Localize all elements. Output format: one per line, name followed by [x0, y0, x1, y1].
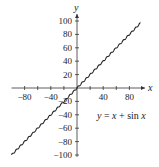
y-tick-label: 20: [63, 70, 73, 80]
equation-label: y = x + sin x: [96, 110, 146, 121]
x-axis-arrow-icon: [141, 86, 145, 90]
y-tick-label: −60: [58, 123, 73, 133]
x-tick-label: 40: [99, 92, 109, 102]
y-tick-label: 40: [63, 56, 73, 66]
series-line: [12, 23, 141, 155]
y-axis-arrow-icon: [75, 14, 79, 18]
x-axis-label: x: [147, 82, 153, 93]
y-axis-label: y: [73, 2, 79, 13]
y-tick-label: −40: [58, 110, 73, 120]
curve: [12, 23, 141, 155]
y-tick-label: 100: [59, 16, 73, 26]
x-tick-label: −80: [18, 92, 33, 102]
y-tick-label: −100: [53, 150, 72, 160]
y-tick-label: 80: [63, 29, 73, 39]
y-tick-label: −80: [58, 137, 73, 147]
y-tick-label: 60: [63, 43, 73, 53]
function-plot: −80−40408010080604020−20−40−60−80−100 x …: [0, 0, 159, 167]
x-tick-label: 80: [125, 92, 135, 102]
x-tick-label: −40: [44, 92, 59, 102]
